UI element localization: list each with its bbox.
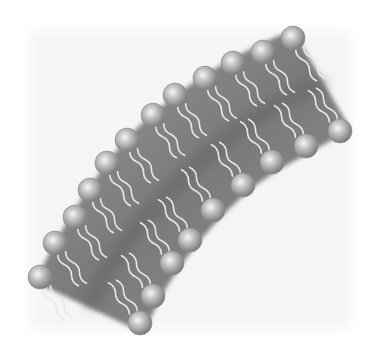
- phosphate-head-icon: [260, 150, 284, 174]
- phosphate-head-icon: [141, 103, 165, 127]
- phosphate-head-icon: [201, 198, 225, 222]
- phosphate-head-icon: [78, 178, 102, 202]
- phosphate-head-icon: [141, 284, 165, 308]
- phosphate-head-icon: [63, 205, 87, 229]
- phosphate-head-icon: [251, 40, 275, 64]
- phosphate-head-icon: [231, 173, 255, 197]
- phosphate-head-icon: [193, 66, 217, 90]
- phosphate-head-icon: [294, 134, 318, 158]
- phosphate-head-icon: [178, 228, 202, 252]
- phosphate-head-icon: [160, 251, 184, 275]
- phosphate-head-icon: [163, 83, 187, 107]
- phosphate-head-icon: [328, 119, 352, 143]
- phosphate-head-icon: [28, 265, 52, 289]
- phosphate-head-icon: [281, 26, 305, 50]
- phosphate-head-icon: [115, 128, 139, 152]
- phosphate-head-icon: [95, 151, 119, 175]
- phosphate-head-icon: [128, 311, 152, 335]
- phosphate-head-icon: [43, 231, 67, 255]
- phospholipid-bilayer-diagram: [0, 0, 381, 362]
- phosphate-head-icon: [221, 51, 245, 75]
